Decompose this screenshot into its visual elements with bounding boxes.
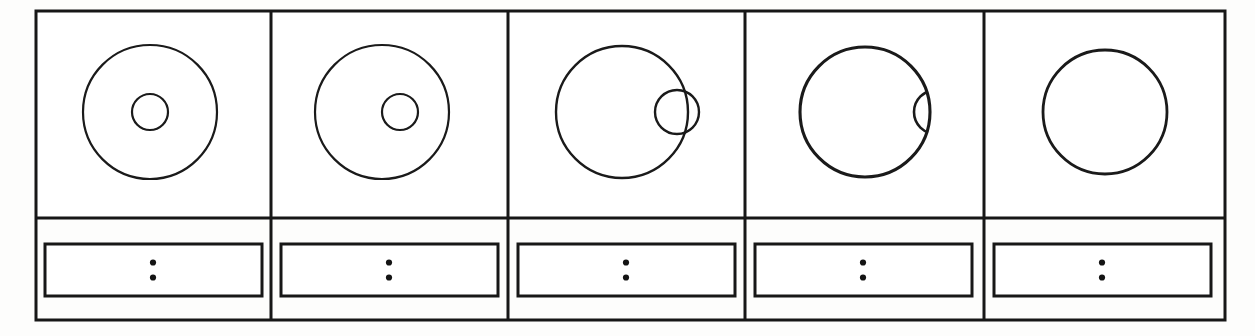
panel-group	[36, 11, 1225, 296]
panel-3-label-dot	[623, 274, 629, 280]
panel-1-label-dot	[150, 259, 156, 265]
panel-5-label-dot	[1099, 274, 1105, 280]
panel-5	[984, 11, 1225, 296]
panel-3-label-box	[518, 244, 735, 296]
panel-4-label-box	[755, 244, 972, 296]
panel-4-label-dot	[860, 259, 866, 265]
panel-2	[271, 11, 508, 296]
panel-5-background	[984, 11, 1225, 218]
panel-2-label-box	[281, 244, 498, 296]
five-panel-circle-sequence-figure	[0, 0, 1255, 336]
panel-1-label-box	[45, 244, 262, 296]
panel-3-label-dot	[623, 259, 629, 265]
panel-2-label-dot	[386, 259, 392, 265]
panel-4-label-dot	[860, 274, 866, 280]
panel-4-background	[745, 11, 984, 218]
figure-root	[0, 0, 1255, 336]
panel-5-label-dot	[1099, 259, 1105, 265]
panel-1	[36, 11, 271, 296]
panel-4	[745, 11, 984, 296]
panel-5-label-box	[994, 244, 1211, 296]
panel-3-background	[508, 11, 745, 218]
panel-2-label-dot	[386, 274, 392, 280]
panel-2-background	[271, 11, 508, 218]
panel-1-background	[36, 11, 271, 218]
panel-3	[508, 11, 745, 296]
panel-1-label-dot	[150, 274, 156, 280]
